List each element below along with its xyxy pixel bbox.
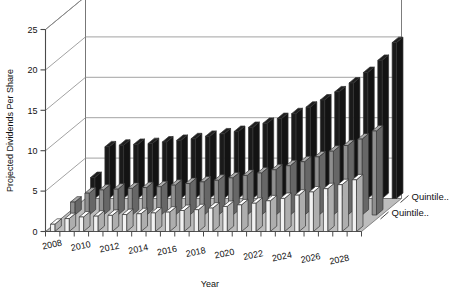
y-tick-label: 10 <box>27 146 37 156</box>
bar-side-face <box>396 37 403 198</box>
bar[interactable] <box>295 190 306 232</box>
bar-front-face <box>151 213 155 232</box>
y-tick-label: 15 <box>27 106 37 116</box>
bar[interactable] <box>209 203 220 232</box>
x-tick-label: 2026 <box>300 251 322 265</box>
bar-front-face <box>266 201 270 232</box>
y-tick-label: 20 <box>27 65 37 75</box>
bar-front-face <box>180 210 184 231</box>
bar[interactable] <box>223 201 234 231</box>
y-tick-label: 25 <box>27 25 37 35</box>
bar[interactable] <box>266 195 277 231</box>
x-tick-label: 2012 <box>99 241 121 255</box>
legend-label: Quintile.. <box>412 191 450 202</box>
bar-front-face <box>79 217 83 232</box>
bar-front-face <box>392 43 396 199</box>
x-tick-label: 2008 <box>41 238 63 252</box>
x-tick-label: 2018 <box>185 245 207 259</box>
bar-side-face <box>299 190 306 232</box>
bar[interactable] <box>372 126 383 215</box>
bar[interactable] <box>323 183 334 231</box>
bar-side-face <box>270 195 277 231</box>
bar-front-face <box>137 214 141 232</box>
bar-front-face <box>280 198 284 231</box>
bar[interactable] <box>392 37 403 198</box>
bar-front-face <box>352 180 356 232</box>
bar-front-face <box>295 195 299 231</box>
bar-front-face <box>309 192 313 232</box>
bar-side-face <box>356 174 363 231</box>
x-tick-label: 2014 <box>127 242 149 256</box>
bar-front-face <box>252 203 256 231</box>
bar-side-face <box>313 187 320 232</box>
y-axis-title: Projected Dividends Per Share <box>5 69 15 192</box>
x-tick-label: 2028 <box>328 253 350 267</box>
y-tick-label: 0 <box>32 227 37 237</box>
y-tick-label: 5 <box>32 186 37 196</box>
bar-front-face <box>122 215 126 232</box>
bar[interactable] <box>280 193 291 232</box>
bar-front-face <box>323 189 327 232</box>
x-tick-label: 2010 <box>70 239 92 253</box>
bar-front-face <box>209 208 213 231</box>
bar-front-face <box>237 205 241 232</box>
x-axis-title: Year <box>201 279 219 289</box>
bar-front-face <box>51 224 55 231</box>
bar[interactable] <box>165 207 176 232</box>
bar-side-face <box>376 126 383 215</box>
bar-side-face <box>285 193 292 232</box>
x-tick-label: 2024 <box>271 250 293 264</box>
bar-side-face <box>328 183 335 231</box>
bar-front-face <box>338 185 342 232</box>
bar-side-face <box>342 179 349 231</box>
bar-front-face <box>165 212 169 231</box>
x-tick-label: 2022 <box>242 248 264 262</box>
bar[interactable] <box>252 198 263 232</box>
bar-front-face <box>223 206 227 231</box>
legend-label: Quintile.. <box>392 207 430 218</box>
bar-front-face <box>194 210 198 232</box>
bar-side-face <box>256 198 263 232</box>
bar-front-face <box>65 219 69 232</box>
bar[interactable] <box>309 187 320 232</box>
x-tick-label: 2016 <box>156 244 178 258</box>
bar-chart-3d: 0510152025Projected Dividends Per Share2… <box>0 0 455 306</box>
bar[interactable] <box>237 199 248 231</box>
x-tick-label: 2020 <box>214 247 236 261</box>
chart-root: 0510152025Projected Dividends Per Share2… <box>0 0 455 306</box>
bar[interactable] <box>338 179 349 231</box>
bar-front-face <box>108 215 112 231</box>
bar[interactable] <box>180 205 191 231</box>
bar[interactable] <box>352 174 363 231</box>
bar-front-face <box>94 216 98 231</box>
bar[interactable] <box>194 204 205 231</box>
bar-front-face <box>372 131 376 215</box>
